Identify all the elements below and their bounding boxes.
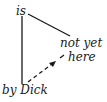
node-not-yet: not yet (60, 37, 102, 49)
dashed-arrow-line (28, 64, 52, 82)
sentence-diagram: is not yet here by Dick (0, 0, 107, 102)
diagonal-line (28, 14, 70, 36)
node-by-dick: by Dick (2, 84, 48, 96)
node-is: is (16, 5, 26, 17)
node-here: here (68, 51, 96, 63)
arrow-head-icon (49, 61, 56, 67)
dash-tick (60, 55, 64, 58)
